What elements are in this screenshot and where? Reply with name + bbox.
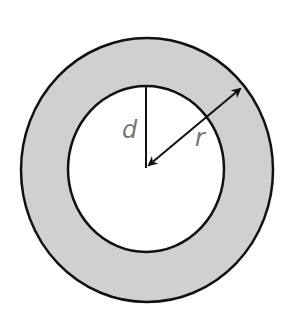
diagram-canvas: d r bbox=[0, 0, 295, 324]
annulus-diagram: d r bbox=[0, 0, 295, 324]
label-d: d bbox=[122, 116, 138, 144]
